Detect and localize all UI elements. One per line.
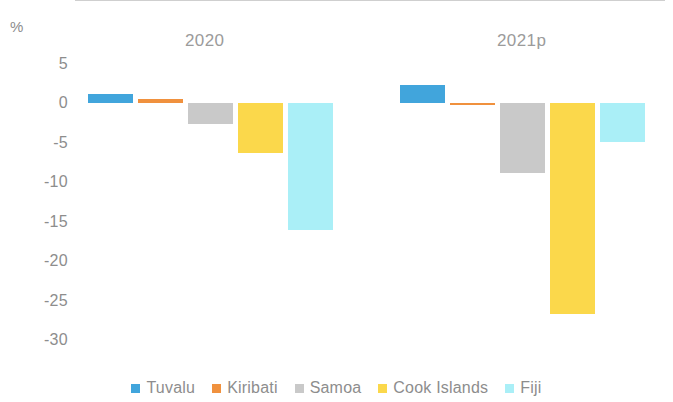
legend-swatch-icon bbox=[378, 384, 387, 393]
chart-legend: TuvaluKiribatiSamoaCook IslandsFiji bbox=[0, 374, 673, 402]
bars-layer bbox=[0, 0, 673, 372]
legend-label: Samoa bbox=[310, 380, 362, 396]
legend-swatch-icon bbox=[295, 384, 304, 393]
bar-tuvalu-2021p bbox=[400, 85, 445, 103]
bar-cook-islands-2020 bbox=[238, 103, 283, 153]
legend-swatch-icon bbox=[505, 384, 514, 393]
bar-kiribati-2021p bbox=[450, 103, 495, 105]
legend-item-cook-islands[interactable]: Cook Islands bbox=[378, 380, 488, 396]
bar-chart: % 50-5-10-15-20-25-30 20202021p TuvaluKi… bbox=[0, 0, 673, 402]
legend-item-samoa[interactable]: Samoa bbox=[295, 380, 362, 396]
bar-fiji-2021p bbox=[600, 103, 645, 142]
legend-swatch-icon bbox=[131, 384, 140, 393]
legend-label: Kiribati bbox=[227, 380, 278, 396]
legend-item-kiribati[interactable]: Kiribati bbox=[212, 380, 278, 396]
bar-kiribati-2020 bbox=[138, 99, 183, 103]
bar-tuvalu-2020 bbox=[88, 94, 133, 103]
legend-item-tuvalu[interactable]: Tuvalu bbox=[131, 380, 195, 396]
legend-swatch-icon bbox=[212, 384, 221, 393]
legend-item-fiji[interactable]: Fiji bbox=[505, 380, 541, 396]
bar-cook-islands-2021p bbox=[550, 103, 595, 314]
legend-label: Cook Islands bbox=[393, 380, 488, 396]
plot-area: % 50-5-10-15-20-25-30 20202021p bbox=[0, 0, 673, 372]
bar-samoa-2021p bbox=[500, 103, 545, 173]
bar-fiji-2020 bbox=[288, 103, 333, 230]
legend-label: Fiji bbox=[520, 380, 541, 396]
legend-label: Tuvalu bbox=[146, 380, 195, 396]
bar-samoa-2020 bbox=[188, 103, 233, 124]
